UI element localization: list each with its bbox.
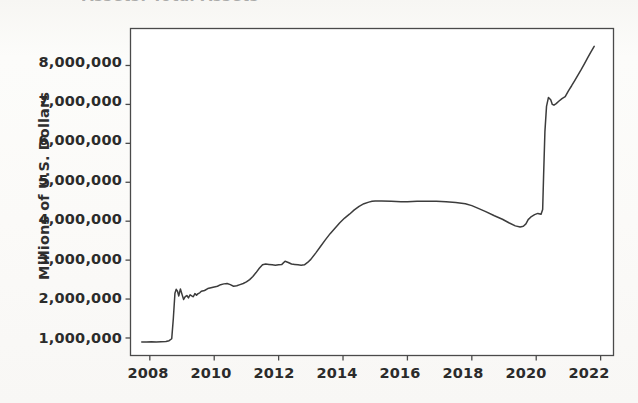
x-tick-label: 2022 — [568, 365, 609, 381]
x-tick-label: 2010 — [190, 365, 231, 381]
x-tick-label: 2014 — [316, 365, 357, 381]
x-tick-label: 2008 — [127, 365, 168, 381]
x-tick-label: 2020 — [505, 365, 546, 381]
x-tick-label: 2012 — [253, 365, 294, 381]
line-chart: Millions of U.S. Dollars 8,000,000 7,000… — [0, 0, 638, 403]
x-tick-label: 2018 — [442, 365, 483, 381]
x-tick-label: 2016 — [379, 365, 420, 381]
x-axis-tick-labels: 2008 2010 2012 2014 2016 2018 2020 2022 — [0, 0, 638, 403]
